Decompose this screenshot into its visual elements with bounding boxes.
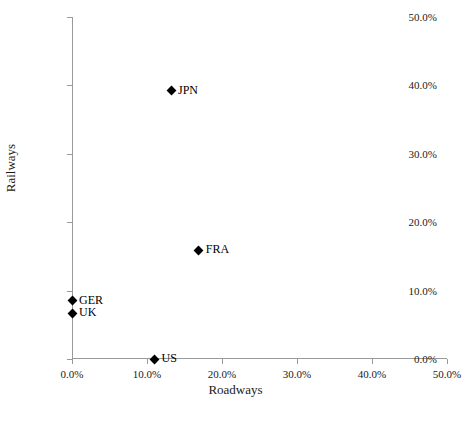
x-tick-label: 10.0%: [112, 369, 182, 380]
x-tick-mark: [72, 359, 73, 364]
plot-area: 0.0%10.0%20.0%30.0%40.0%50.0% 0.0%10.0%2…: [72, 17, 447, 359]
y-tick-label: 10.0%: [377, 286, 437, 297]
data-point-label: US: [162, 352, 177, 365]
x-tick-label: 40.0%: [337, 369, 407, 380]
x-axis-title: Roadways: [0, 382, 471, 398]
diamond-marker-icon: [67, 308, 77, 318]
x-tick-label: 50.0%: [412, 369, 471, 380]
diamond-marker-icon: [67, 296, 77, 306]
y-axis-title: Railways: [3, 88, 19, 248]
y-tick-label: 40.0%: [377, 80, 437, 91]
y-tick-mark: [67, 291, 72, 292]
y-tick-label: 30.0%: [377, 149, 437, 160]
y-tick-mark: [67, 154, 72, 155]
data-point-label: JPN: [178, 84, 198, 97]
x-tick-mark: [297, 359, 298, 364]
x-tick-label: 30.0%: [262, 369, 332, 380]
y-tick-mark: [67, 17, 72, 18]
x-tick-mark: [447, 359, 448, 364]
diamond-marker-icon: [166, 86, 176, 96]
y-tick-label: 20.0%: [377, 217, 437, 228]
x-tick-label: 0.0%: [37, 369, 107, 380]
y-tick-mark: [67, 222, 72, 223]
data-point-label: FRA: [206, 243, 229, 256]
x-tick-mark: [372, 359, 373, 364]
diamond-marker-icon: [150, 354, 160, 364]
x-tick-mark: [147, 359, 148, 364]
scatter-chart-figure: 0.0%10.0%20.0%30.0%40.0%50.0% 0.0%10.0%2…: [0, 0, 471, 422]
figure-caption: [0, 414, 471, 422]
y-tick-label: 50.0%: [377, 12, 437, 23]
x-tick-label: 20.0%: [187, 369, 257, 380]
y-tick-label: 0.0%: [377, 354, 437, 365]
diamond-marker-icon: [194, 245, 204, 255]
x-tick-mark: [222, 359, 223, 364]
data-point-label: UK: [79, 306, 96, 319]
y-tick-mark: [67, 85, 72, 86]
